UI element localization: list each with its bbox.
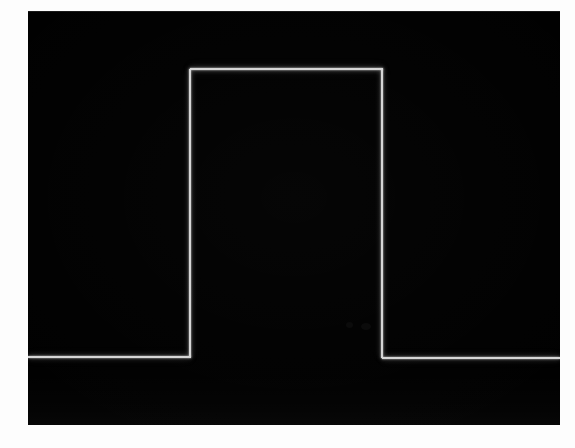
oscilloscope-display: [28, 11, 560, 425]
trace-falling-edge: [381, 69, 383, 358]
trace-rising-edge: [189, 69, 191, 357]
screen-top-hairline: [28, 11, 560, 12]
screen-vignette-overlay: [28, 11, 560, 425]
film-noise-speck: [346, 322, 353, 328]
trace-pulse-top: [190, 68, 383, 70]
screen-lower-glow-band: [28, 373, 560, 425]
trace-baseline-right: [382, 357, 560, 359]
screen-readout-text: [28, 11, 29, 12]
trace-baseline-left: [28, 356, 191, 358]
photograph-caption: Oscilloscope screen showing a single rec…: [0, 0, 1, 1]
photograph-frame: Oscilloscope screen showing a single rec…: [0, 0, 575, 448]
film-noise-speck: [361, 323, 371, 330]
